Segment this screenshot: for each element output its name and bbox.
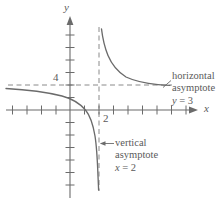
y-axis-arrow xyxy=(67,16,74,25)
x-tick-label-2: 2 xyxy=(103,112,109,125)
vertical-callout-eq-value: 2 xyxy=(131,162,136,173)
vertical-callout-arrow xyxy=(100,141,106,145)
horizontal-asymptote-callout: horizontal asymptote y = 3 xyxy=(172,70,215,107)
vertical-callout-line2: asymptote xyxy=(115,149,158,161)
vertical-callout-eq-sign: = xyxy=(120,162,131,173)
curve-left-branch xyxy=(6,89,99,191)
curve-right-branch xyxy=(102,29,171,85)
rational-function-figure: y x 4 2 horizontal asymptote y = 3 verti… xyxy=(0,0,224,201)
y-tick-label-4: 4 xyxy=(53,71,59,84)
vertical-asymptote-callout: vertical asymptote x = 2 xyxy=(115,137,158,174)
horizontal-callout-equation: y = 3 xyxy=(172,95,215,107)
y-axis-label: y xyxy=(64,1,69,14)
x-axis-arrow xyxy=(189,107,198,114)
horizontal-callout-leader xyxy=(163,81,171,88)
vertical-callout-line1: vertical xyxy=(115,137,158,149)
horizontal-callout-eq-value: 3 xyxy=(188,95,193,106)
horizontal-callout-eq-sign: = xyxy=(177,95,188,106)
vertical-callout-equation: x = 2 xyxy=(115,162,158,174)
horizontal-callout-line2: asymptote xyxy=(172,82,215,94)
horizontal-callout-line1: horizontal xyxy=(172,70,215,82)
